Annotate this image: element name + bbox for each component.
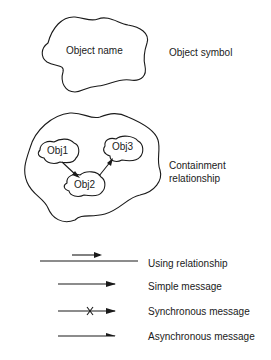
container-cloud — [25, 113, 161, 222]
object-symbol-caption: Object symbol — [169, 47, 232, 59]
legend-synchronous-label: Synchronous message — [148, 306, 250, 318]
legend-simple-label: Simple message — [148, 281, 222, 293]
containment-caption-line1: Containment — [169, 160, 226, 172]
containment-caption-line2: relationship — [169, 173, 220, 185]
legend-using-label: Using relationship — [148, 258, 228, 270]
obj1-label: Obj1 — [47, 145, 68, 157]
obj3-label: Obj3 — [112, 141, 133, 153]
object-name-label: Object name — [66, 45, 123, 57]
legend-asynchronous-label: Asynchronous message — [148, 331, 255, 343]
obj2-label: Obj2 — [74, 179, 95, 191]
